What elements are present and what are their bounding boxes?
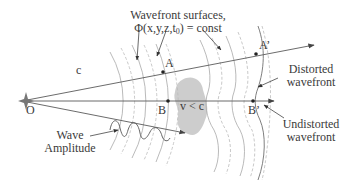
wave-amplitude-label: Wave Amplitude bbox=[40, 129, 100, 155]
point-b-label: B bbox=[158, 104, 166, 117]
point-b-dot bbox=[166, 99, 170, 103]
undistorted-line2: wavefront bbox=[276, 131, 346, 144]
point-a-label: A bbox=[165, 57, 174, 70]
point-a-prime-label: A’ bbox=[259, 39, 270, 52]
wavefront-surfaces-line1: Wavefront surfaces, bbox=[108, 9, 248, 22]
undistorted-wavefront-label: Undistorted wavefront bbox=[276, 118, 346, 144]
distorted-line2: wavefront bbox=[278, 76, 344, 89]
wavefront-surfaces-equation: Φ(x,y,z,t0) = const bbox=[108, 22, 248, 35]
equation-prefix: Φ(x,y,z,t bbox=[134, 21, 176, 35]
distorted-wavefront-label: Distorted wavefront bbox=[278, 63, 344, 89]
amplitude-line2: Amplitude bbox=[40, 142, 100, 155]
wavefront-surfaces-label: Wavefront surfaces, Φ(x,y,z,t0) = const bbox=[108, 9, 248, 35]
point-a-dot bbox=[161, 70, 165, 74]
point-a-prime-dot bbox=[254, 52, 258, 56]
equation-suffix: ) = const bbox=[180, 21, 222, 35]
source-o-label: O bbox=[26, 104, 35, 117]
point-b-prime-label: B’ bbox=[248, 104, 260, 117]
speed-c-label: c bbox=[76, 64, 81, 77]
medium-v-less-c-label: v < c bbox=[180, 100, 204, 113]
